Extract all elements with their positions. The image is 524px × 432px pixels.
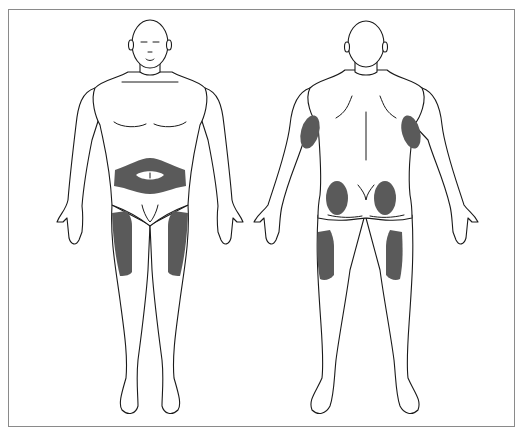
front-left-ear [129, 40, 134, 50]
front-right-arm [200, 88, 243, 244]
back-left-ear [345, 42, 350, 52]
site-left-outer-thigh [317, 230, 334, 280]
site-right-buttock [374, 181, 396, 215]
front-right-ear [167, 40, 172, 50]
back-left-arm [254, 88, 318, 244]
front-left-arm [57, 88, 100, 244]
body-diagram [0, 0, 524, 432]
site-left-buttock [326, 181, 348, 215]
site-right-outer-thigh [386, 230, 403, 280]
back-right-ear [383, 42, 388, 52]
front-torso [93, 72, 207, 226]
back-view [254, 21, 478, 413]
back-head [348, 21, 384, 67]
front-view [57, 20, 243, 413]
back-right-arm [414, 88, 478, 244]
